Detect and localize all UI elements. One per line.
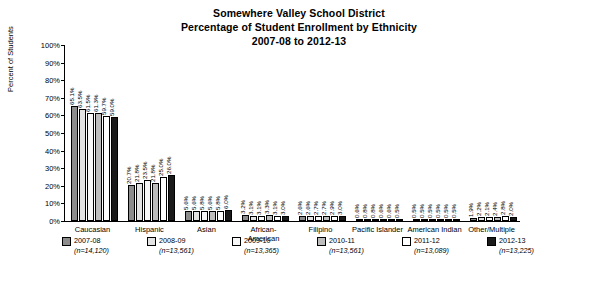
bar: 26.0%: [168, 175, 175, 221]
bar: 2.7%: [315, 216, 322, 221]
legend-series-name: 2012-13: [499, 236, 525, 245]
legend-swatch-icon: [402, 237, 411, 246]
y-tick-mark: [61, 63, 64, 64]
bars: 5.6%5.6%5.8%5.6%5.8%6.0%: [185, 45, 232, 221]
y-tick-100: 100%: [41, 41, 60, 50]
bar: 2.0%: [510, 217, 517, 221]
bar: 3.0%: [282, 216, 289, 221]
bar: 0.6%: [356, 219, 363, 221]
legend-series-count: (n=13,561): [159, 246, 194, 255]
legend-label: 2007-08(n=14,120): [74, 236, 109, 255]
x-axis: [64, 221, 520, 222]
plot-area: 0%10%20%30%40%50%60%70%80%90%100% 65.1%6…: [64, 45, 520, 222]
bar-value-label: 6.0%: [222, 195, 229, 209]
legend-item[interactable]: 2011-12(n=13,089): [402, 236, 449, 255]
bar-value-label: 61.3%: [92, 95, 99, 113]
bar: 2.2%: [478, 217, 485, 221]
bar-value-label: 2.7%: [312, 201, 319, 215]
bar: 25.0%: [160, 177, 167, 221]
bar: 2.6%: [307, 216, 314, 221]
bar-value-label: 0.8%: [369, 204, 376, 218]
legend-label: 2011-12(n=13,089): [414, 236, 449, 255]
bar-value-label: 5.8%: [214, 196, 221, 210]
bar-value-label: 61.5%: [84, 94, 91, 112]
legend-series-name: 2010-11: [329, 236, 355, 245]
legend-series-count: (n=14,120): [74, 246, 109, 255]
title-line-2: Percentage of Student Enrollment by Ethn…: [0, 20, 598, 34]
bar-value-label: 20.7%: [125, 166, 132, 184]
bar-value-label: 5.6%: [182, 196, 189, 210]
bar-value-label: 1.9%: [467, 203, 474, 217]
bar-value-label: 2.1%: [483, 202, 490, 216]
bar: 3.1%: [274, 216, 281, 221]
bar: 2.8%: [502, 216, 509, 221]
bar: 3.0%: [339, 216, 346, 221]
bar: 23.5%: [144, 180, 151, 221]
bar: 1.9%: [470, 218, 477, 221]
y-axis-label: Percent of Students: [6, 78, 15, 92]
bar-value-label: 3.0%: [336, 201, 343, 215]
legend-item[interactable]: 2012-13(n=13,225): [487, 236, 534, 255]
y-tick-mark: [61, 45, 64, 46]
bars: 0.5%0.5%0.5%0.5%0.5%0.5%: [413, 45, 460, 221]
legend-swatch-icon: [62, 237, 71, 246]
bars: 3.2%3.1%3.1%3.3%3.1%3.0%: [242, 45, 289, 221]
legend-series-count: (n=13,561): [329, 246, 364, 255]
bar: 2.4%: [494, 217, 501, 221]
bar-value-label: 0.5%: [418, 204, 425, 218]
bar-value-label: 5.6%: [190, 196, 197, 210]
bar: 59.0%: [111, 117, 118, 221]
bar-value-label: 3.0%: [279, 201, 286, 215]
bar-value-label: 2.7%: [320, 201, 327, 215]
y-tick-mark: [61, 221, 64, 222]
bar: 3.2%: [242, 215, 249, 221]
bar-value-label: 3.2%: [239, 200, 246, 214]
legend-item[interactable]: 2009-10(n=13,365): [232, 236, 279, 255]
bar: 21.8%: [152, 183, 159, 221]
bar-value-label: 0.5%: [393, 204, 400, 218]
bar-value-label: 63.5%: [76, 91, 83, 109]
chart-legend: 2007-08(n=14,120)2008-09(n=13,561)2009-1…: [62, 236, 534, 255]
bar: 0.6%: [380, 219, 387, 221]
bar: 0.5%: [453, 219, 460, 221]
bar: 65.1%: [71, 106, 78, 221]
bars: 65.1%63.5%61.5%61.3%59.7%59.0%: [71, 45, 118, 221]
y-tick-mark: [61, 133, 64, 134]
bar: 0.5%: [445, 219, 452, 221]
bars: 20.7%21.8%23.5%21.8%25.0%26.0%: [128, 45, 175, 221]
y-tick-50: 50%: [45, 129, 60, 138]
y-tick-90: 90%: [45, 58, 60, 67]
legend-item[interactable]: 2008-09(n=13,561): [147, 236, 194, 255]
chart-title: Somewhere Valley School District Percent…: [0, 6, 598, 48]
y-tick-10: 10%: [45, 199, 60, 208]
bar: 3.1%: [258, 216, 265, 221]
title-line-1: Somewhere Valley School District: [0, 6, 598, 20]
y-tick-70: 70%: [45, 93, 60, 102]
bar-value-label: 3.1%: [255, 200, 262, 214]
y-tick-mark: [61, 80, 64, 81]
legend-label: 2009-10(n=13,365): [244, 236, 279, 255]
bars: 1.9%2.2%2.1%2.4%2.8%2.0%: [470, 45, 517, 221]
legend-swatch-icon: [317, 237, 326, 246]
bar: 20.7%: [128, 185, 135, 221]
bar-value-label: 0.5%: [434, 204, 441, 218]
bar-value-label: 23.5%: [141, 161, 148, 179]
legend-series-name: 2011-12: [414, 236, 440, 245]
legend-item[interactable]: 2010-11(n=13,561): [317, 236, 364, 255]
y-tick-60: 60%: [45, 111, 60, 120]
y-tick-80: 80%: [45, 76, 60, 85]
bar: 61.3%: [95, 113, 102, 221]
y-tick-30: 30%: [45, 164, 60, 173]
legend-label: 2010-11(n=13,561): [329, 236, 364, 255]
legend-swatch-icon: [147, 237, 156, 246]
legend-item[interactable]: 2007-08(n=14,120): [62, 236, 109, 255]
bar-value-label: 2.2%: [475, 202, 482, 216]
y-tick-20: 20%: [45, 181, 60, 190]
bar: 0.5%: [429, 219, 436, 221]
bar: 2.7%: [323, 216, 330, 221]
bars: 0.6%0.8%0.8%0.6%0.6%0.5%: [356, 45, 403, 221]
bar-value-label: 0.5%: [450, 204, 457, 218]
bars: 2.6%2.6%2.7%2.7%2.9%3.0%: [299, 45, 346, 221]
bar-value-label: 26.0%: [165, 157, 172, 175]
bar: 59.7%: [103, 116, 110, 221]
